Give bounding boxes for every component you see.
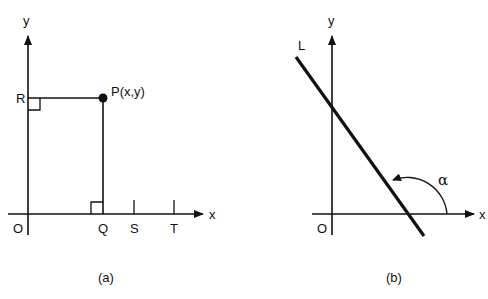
panel-b: y x O L α (b) bbox=[296, 13, 486, 285]
angle-alpha-label: α bbox=[438, 171, 448, 189]
y-axis-label-a: y bbox=[23, 13, 30, 28]
point-p-label: P(x,y) bbox=[111, 84, 145, 99]
caption-a: (a) bbox=[98, 270, 114, 285]
figure-canvas: y x O R P(x,y) Q S T (a) y x O L α (b) bbox=[0, 0, 488, 299]
origin-label-b: O bbox=[317, 221, 327, 236]
panel-a: y x O R P(x,y) Q S T (a) bbox=[8, 13, 216, 285]
right-angle-marker-q bbox=[91, 202, 103, 214]
x-axis-label-a: x bbox=[209, 207, 216, 222]
caption-b: (b) bbox=[386, 270, 402, 285]
point-s-label: S bbox=[130, 221, 139, 236]
right-angle-marker-r bbox=[28, 98, 40, 110]
point-t-label: T bbox=[170, 221, 178, 236]
origin-label-a: O bbox=[13, 221, 23, 236]
point-p bbox=[99, 94, 108, 103]
point-q-label: Q bbox=[98, 221, 108, 236]
x-axis-label-b: x bbox=[479, 207, 486, 222]
line-l bbox=[296, 57, 424, 236]
y-axis-label-b: y bbox=[328, 13, 335, 28]
line-l-label: L bbox=[298, 38, 305, 53]
point-r-label: R bbox=[16, 91, 25, 106]
